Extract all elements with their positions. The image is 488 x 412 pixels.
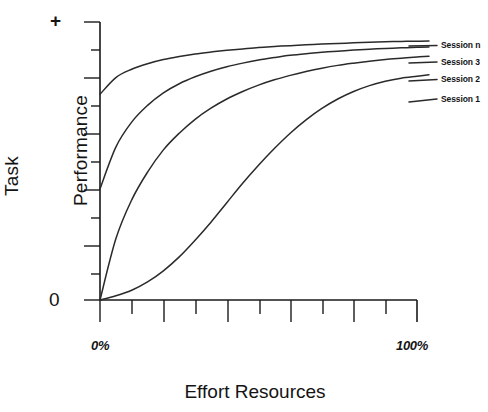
legend-item-session-3: Session 3	[441, 57, 480, 67]
x-axis-ticks	[100, 300, 386, 322]
legend-item-session-1: Session 1	[441, 94, 480, 104]
legend-item-session-2: Session 2	[441, 74, 480, 84]
curve-session-1	[100, 75, 429, 300]
curve-session-3	[100, 47, 429, 189]
curve-session-2	[100, 56, 429, 300]
x-axis-max-label: 100%	[396, 338, 428, 353]
y-axis-title: Task Performance	[0, 146, 138, 206]
legend-item-session-n: Session n	[441, 40, 480, 50]
x-axis-title-line1: Effort Resources	[130, 380, 380, 403]
data-curves	[100, 41, 429, 300]
y-axis-zero-label: 0	[49, 289, 60, 311]
y-axis-title-line1: Task	[0, 146, 23, 206]
legend-rules	[409, 46, 437, 103]
x-axis-min-label: 0%	[91, 338, 109, 353]
y-axis-max-label: +	[50, 10, 61, 32]
x-axis-title: Effort Resources (in percent units)	[130, 334, 380, 412]
y-axis-title-line2: Performance	[69, 146, 92, 206]
chart-figure: Task Performance + 0 0% 100% Effort Reso…	[0, 0, 488, 412]
